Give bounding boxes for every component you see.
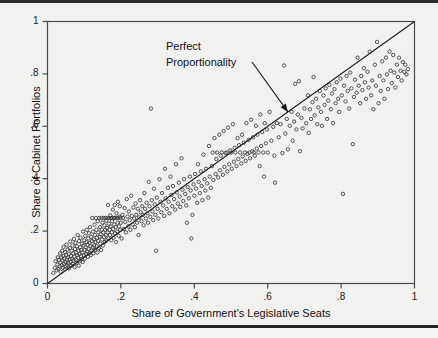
x-tick-label: .8: [321, 291, 361, 302]
x-tick-label: 1: [395, 291, 435, 302]
annotation-line-1: Perfect: [166, 40, 201, 52]
y-tick-label: 1: [1, 15, 39, 26]
y-tick-label: .8: [1, 67, 39, 78]
y-tick-label: 0: [1, 277, 39, 288]
scatter-plot: [0, 0, 438, 338]
y-tick-label: .6: [1, 119, 39, 130]
y-tick-label: .2: [1, 224, 39, 235]
x-tick-label: 0: [28, 291, 68, 302]
figure-container: Share of Cabinet Portfolios Share of Gov…: [0, 0, 438, 338]
annotation-line-2: Proportionality: [166, 56, 236, 68]
y-tick-label: .4: [1, 172, 39, 183]
x-tick-label: .2: [101, 291, 141, 302]
x-axis-title: Share of Government's Legislative Seats: [47, 307, 415, 319]
below-figure-strip: [0, 328, 438, 338]
x-tick-label: .6: [248, 291, 288, 302]
x-tick-label: .4: [174, 291, 214, 302]
